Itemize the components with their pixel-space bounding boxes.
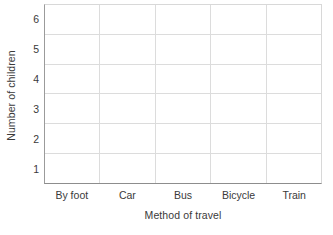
plot-area[interactable] bbox=[44, 4, 322, 184]
grid-column-car bbox=[100, 5, 155, 183]
y-tick-label: 2 bbox=[24, 124, 40, 154]
grid-column-bicycle bbox=[211, 5, 266, 183]
grid-column-train bbox=[267, 5, 321, 183]
y-tick-label: 3 bbox=[24, 94, 40, 124]
y-tick-label: 1 bbox=[24, 154, 40, 184]
x-axis-tick-labels: By foot Car Bus Bicycle Train bbox=[44, 187, 322, 203]
vertical-gridlines bbox=[45, 5, 321, 183]
y-tick-label: 4 bbox=[24, 64, 40, 94]
x-axis-title: Method of travel bbox=[44, 209, 322, 221]
bar-chart-figure: Number of children 6 5 4 3 2 1 By foot C… bbox=[0, 0, 333, 235]
grid-column-bus bbox=[156, 5, 211, 183]
x-tick-label-bus: Bus bbox=[155, 187, 211, 203]
y-tick-label: 5 bbox=[24, 34, 40, 64]
x-tick-label-bicycle: Bicycle bbox=[211, 187, 267, 203]
y-tick-label: 6 bbox=[24, 4, 40, 34]
grid-column-by-foot bbox=[45, 5, 100, 183]
y-axis-tick-labels: 6 5 4 3 2 1 bbox=[24, 4, 40, 184]
x-tick-label-by-foot: By foot bbox=[44, 187, 100, 203]
x-tick-label-car: Car bbox=[100, 187, 156, 203]
x-tick-label-train: Train bbox=[266, 187, 322, 203]
y-axis-title: Number of children bbox=[2, 3, 20, 188]
